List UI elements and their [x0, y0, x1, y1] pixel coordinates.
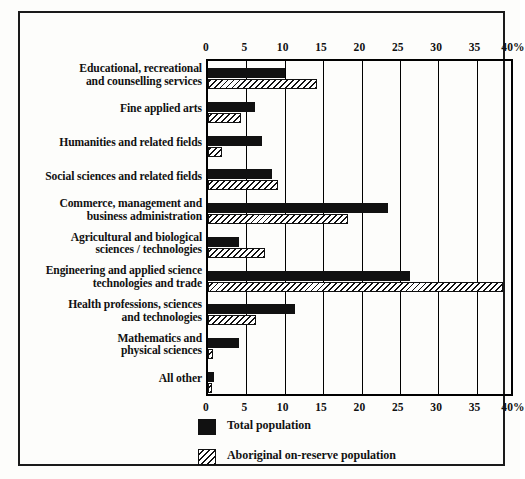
- x-tick-label-25: 25: [392, 401, 404, 413]
- category-label-line: Commerce, management and: [34, 198, 202, 211]
- bar-total-3: [208, 169, 272, 179]
- legend-item-aboriginal-on-reserve-population: Aboriginal on-reserve population: [198, 447, 498, 477]
- x-tick-label-20: 20: [354, 401, 366, 413]
- bar-aboriginal-1: [208, 113, 241, 123]
- category-label-line: Educational, recreational: [34, 63, 202, 76]
- x-axis-labels-top: 0510152025303540%: [206, 41, 513, 55]
- x-tick-label-5: 5: [241, 401, 247, 413]
- category-label-3: Social sciences and related fields: [34, 171, 202, 184]
- category-label-line: and technologies: [34, 312, 202, 325]
- category-label-line: Humanities and related fields: [34, 137, 202, 150]
- bar-total-7: [208, 304, 295, 314]
- bar-total-4: [208, 203, 388, 213]
- gridline-30: [438, 61, 439, 394]
- bar-total-5: [208, 237, 239, 247]
- bar-aboriginal-8: [208, 349, 213, 359]
- bar-aboriginal-9: [208, 383, 212, 393]
- x-tick-label-25: 25: [392, 41, 404, 53]
- bar-aboriginal-7: [208, 315, 256, 325]
- plot-area: [206, 59, 513, 396]
- bar-total-0: [208, 68, 285, 78]
- category-label-7: Health professions, sciencesand technolo…: [34, 299, 202, 324]
- category-label-9: All other: [34, 373, 202, 386]
- x-tick-label-20: 20: [354, 41, 366, 53]
- category-label-5: Agricultural and biologicalsciences / te…: [34, 232, 202, 257]
- category-label-line: business administration: [34, 211, 202, 224]
- category-label-line: and counselling services: [34, 76, 202, 89]
- x-tick-label-0: 0: [203, 401, 209, 413]
- bar-aboriginal-6: [208, 282, 503, 292]
- category-label-line: Health professions, sciences: [34, 299, 202, 312]
- bar-aboriginal-3: [208, 180, 278, 190]
- bar-aboriginal-0: [208, 79, 317, 89]
- bar-aboriginal-4: [208, 214, 348, 224]
- category-labels: Educational, recreationaland counselling…: [30, 59, 202, 396]
- category-label-line: All other: [34, 373, 202, 386]
- x-axis-labels-bottom: 0510152025303540%: [206, 401, 513, 415]
- x-tick-label-10: 10: [277, 401, 289, 413]
- category-label-6: Engineering and applied sciencetechnolog…: [34, 265, 202, 290]
- gridline-15: [323, 61, 324, 394]
- legend-swatch-solid-icon: [198, 419, 216, 435]
- gridline-35: [477, 61, 478, 394]
- x-tick-label-15: 15: [315, 41, 327, 53]
- bar-aboriginal-2: [208, 147, 222, 157]
- bar-total-9: [208, 372, 214, 382]
- category-label-line: physical sciences: [34, 345, 202, 358]
- gridline-25: [400, 61, 401, 394]
- category-label-line: Social sciences and related fields: [34, 171, 202, 184]
- chart-frame: 0510152025303540% Educational, recreatio…: [18, 11, 505, 466]
- x-tick-label-15: 15: [315, 401, 327, 413]
- category-label-line: sciences / technologies: [34, 244, 202, 257]
- x-tick-label-5: 5: [241, 41, 247, 53]
- category-label-line: Fine applied arts: [34, 103, 202, 116]
- x-tick-label-35: 35: [469, 401, 481, 413]
- bar-aboriginal-5: [208, 248, 265, 258]
- legend-swatch-hatched-icon: [198, 449, 216, 465]
- bar-total-6: [208, 271, 410, 281]
- category-label-1: Fine applied arts: [34, 103, 202, 116]
- x-tick-label-30: 30: [430, 41, 442, 53]
- category-label-8: Mathematics andphysical sciences: [34, 333, 202, 358]
- legend-label-aboriginal-on-reserve-population: Aboriginal on-reserve population: [227, 448, 396, 463]
- x-tick-label-10: 10: [277, 41, 289, 53]
- legend-label-total-population: Total population: [227, 418, 311, 433]
- x-tick-label-40pct: 40%: [501, 41, 525, 53]
- gridline-10: [285, 61, 286, 394]
- category-label-line: technologies and trade: [34, 278, 202, 291]
- legend: Total population Aboriginal on-reserve p…: [198, 417, 498, 477]
- category-label-0: Educational, recreationaland counselling…: [34, 63, 202, 88]
- legend-item-total-population: Total population: [198, 417, 498, 447]
- category-label-4: Commerce, management andbusiness adminis…: [34, 198, 202, 223]
- bar-total-1: [208, 102, 255, 112]
- x-tick-label-35: 35: [469, 41, 481, 53]
- bar-total-8: [208, 338, 239, 348]
- gridline-20: [362, 61, 363, 394]
- x-tick-label-40pct: 40%: [501, 401, 525, 413]
- x-tick-label-30: 30: [430, 401, 442, 413]
- x-tick-label-0: 0: [203, 41, 209, 53]
- category-label-2: Humanities and related fields: [34, 137, 202, 150]
- bar-total-2: [208, 136, 262, 146]
